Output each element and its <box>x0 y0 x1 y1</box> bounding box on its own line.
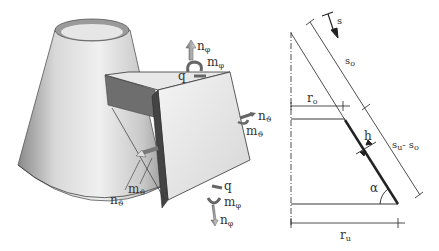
label-n-phi-top: nφ <box>197 40 210 54</box>
label-r-o: ro <box>307 92 318 106</box>
label-m-phi-bottom: mφ <box>224 196 241 210</box>
label-q-top: q <box>178 70 186 82</box>
label-m-phi-top: mφ <box>207 56 224 70</box>
label-n-phi-bottom: nφ <box>220 214 233 228</box>
label-h: h <box>364 130 372 142</box>
label-m-theta-right: mϑ <box>246 125 263 139</box>
label-n-theta-right: nϑ <box>258 110 271 124</box>
label-m-theta-left: mϑ <box>128 183 145 197</box>
label-q-bottom: q <box>224 180 232 192</box>
label-r-u: ru <box>340 229 351 243</box>
label-alpha: α <box>370 182 378 194</box>
label-s-o: so <box>345 56 355 68</box>
label-n-theta-left: nϑ <box>110 194 123 208</box>
label-s: s <box>337 16 342 26</box>
label-su-minus-so: su- so <box>392 140 419 152</box>
meridian-section <box>291 12 423 228</box>
